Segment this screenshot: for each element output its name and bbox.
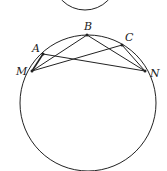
- point-M: [31, 70, 34, 73]
- label-A: A: [31, 42, 40, 55]
- segment-MB: [32, 35, 87, 71]
- point-C: [121, 44, 124, 47]
- label-B: B: [83, 20, 92, 33]
- point-A: [42, 53, 45, 56]
- main-circle: [20, 35, 156, 171]
- top-partial-circle: [53, 0, 117, 10]
- label-M: M: [15, 65, 28, 78]
- segment-CN: [122, 45, 145, 71]
- label-N: N: [149, 67, 160, 80]
- point-B: [86, 34, 89, 37]
- segment-AN: [43, 54, 145, 71]
- label-C: C: [125, 31, 134, 44]
- point-N: [144, 70, 147, 73]
- geometry-diagram: A B C M N: [0, 0, 167, 171]
